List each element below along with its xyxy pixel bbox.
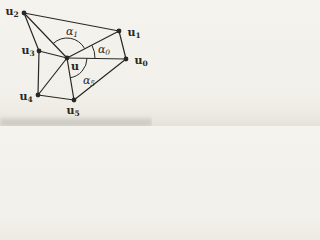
vertex-label-u: u (71, 60, 79, 73)
vertex-dot-u3 (37, 49, 42, 54)
vertex-label-u2: u2 (5, 5, 18, 19)
vertex-label-u3: u3 (21, 44, 34, 58)
vertex-dot-u4 (36, 93, 41, 98)
edge-u-u3 (39, 51, 67, 58)
vertex-dot-u5 (72, 98, 77, 103)
angle-label-alpha0: α0 (98, 43, 110, 57)
edge-u5-u0 (74, 59, 126, 100)
vertex-label-u5: u5 (66, 104, 79, 118)
vertex-label-u4: u4 (19, 90, 32, 104)
one-ring-graph-diagram: α0α1α5uu0u1u2u3u4u5 (0, 0, 152, 126)
edge-u0-u1 (119, 31, 126, 59)
angle-arc-alpha0 (92, 45, 95, 58)
edge-u3-u4 (38, 51, 39, 95)
figure-canvas: α0α1α5uu0u1u2u3u4u5 (0, 0, 152, 126)
edge-u-u4 (38, 58, 67, 95)
vertex-dot-u2 (22, 11, 27, 16)
vertex-label-u1: u1 (127, 26, 140, 40)
vertex-dot-u (65, 56, 70, 61)
edge-u4-u5 (38, 95, 74, 100)
angle-arc-alpha1 (53, 38, 85, 49)
vertex-dot-u1 (117, 29, 122, 34)
angle-label-alpha5: α5 (83, 74, 95, 88)
angle-label-alpha1: α1 (66, 25, 78, 39)
vertex-dot-u0 (124, 57, 129, 62)
vertex-label-u0: u0 (134, 54, 147, 68)
